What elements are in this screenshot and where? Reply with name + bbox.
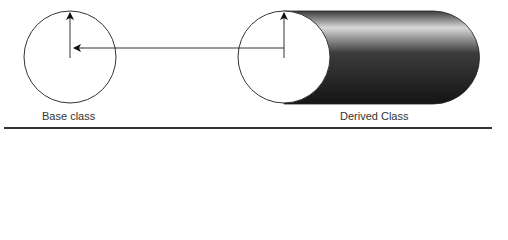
- bottom-divider: [4, 127, 492, 129]
- derived-class-label: Derived Class: [340, 110, 408, 122]
- base-class-label: Base class: [42, 110, 95, 122]
